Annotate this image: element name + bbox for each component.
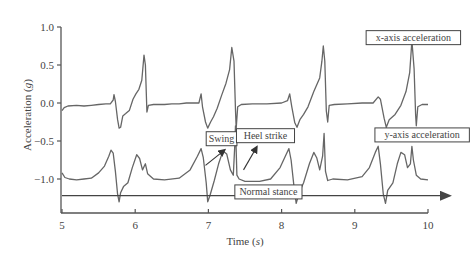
axes: 1.00.50.0−0.5−1.05678910 (34, 21, 434, 231)
y-tick-label: 1.0 (40, 21, 54, 33)
x-tick-label: 7 (206, 219, 212, 231)
y-tick-label: −1.0 (34, 173, 54, 185)
svg-text:Heel strike: Heel strike (244, 130, 288, 141)
svg-text:Normal stance: Normal stance (239, 186, 298, 197)
swing-label: Swing (206, 132, 237, 146)
x-axis-title: Time (s) (226, 235, 264, 248)
x-tick-label: 5 (59, 219, 65, 231)
chart-svg: 1.00.50.0−0.5−1.05678910 x-axis accelera… (0, 0, 474, 253)
normal-stance-label: Normal stance (235, 185, 302, 199)
y-axis-title: Acceleration (g) (21, 79, 34, 151)
annotations-layer: x-axis accelerationy-axis accelerationSw… (62, 31, 469, 199)
x-tick-label: 8 (279, 219, 285, 231)
x-tick-label: 9 (352, 219, 358, 231)
x-tick-label: 10 (423, 219, 435, 231)
heel-strike-label: Heel strike (236, 129, 294, 143)
x-tick-label: 6 (132, 219, 138, 231)
svg-text:Swing: Swing (209, 133, 235, 144)
y-axis-acceleration-label: y-axis acceleration (375, 128, 469, 142)
x-axis-acceleration-line (62, 41, 428, 128)
svg-text:y-axis acceleration: y-axis acceleration (385, 129, 460, 140)
x-axis-acceleration-label: x-axis acceleration (366, 31, 460, 45)
heel-strike-arrow (244, 147, 257, 170)
swing-arrow (205, 150, 224, 165)
series-layer (62, 41, 428, 204)
y-tick-label: −0.5 (34, 135, 54, 147)
gait-acceleration-chart: 1.00.50.0−0.5−1.05678910 x-axis accelera… (0, 0, 474, 253)
y-tick-label: 0.0 (40, 97, 54, 109)
svg-text:x-axis acceleration: x-axis acceleration (376, 32, 451, 43)
y-tick-label: 0.5 (40, 59, 54, 71)
